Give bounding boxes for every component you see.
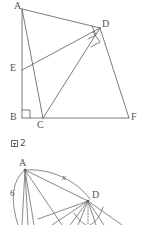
- length-label-x: x: [62, 172, 66, 182]
- ray-A-1: [22, 170, 25, 225]
- arc-near-D-2: [74, 213, 86, 225]
- geometry-diagram-bottom: [0, 0, 143, 225]
- length-label-6: 6: [10, 188, 15, 198]
- ray-D-left-1: [38, 201, 88, 219]
- vertex-label-A-bottom: A: [19, 158, 26, 168]
- vertex-dot-D-bottom: [87, 200, 90, 203]
- vertex-label-D-bottom: D: [92, 190, 99, 200]
- vertex-dot-A-bottom: [24, 169, 27, 172]
- figure-canvas: A B C D E F 2: [0, 0, 143, 225]
- ray-D-right-1: [88, 201, 122, 225]
- ray-D-down-4: [88, 201, 104, 225]
- arc-near-D: [90, 207, 103, 225]
